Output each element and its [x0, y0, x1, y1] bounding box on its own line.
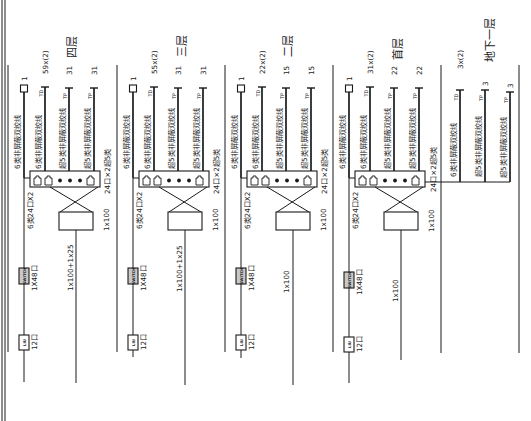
patch-panel-label: 24口×2超5类 [320, 149, 329, 194]
outlet-td: 31x(2) TD 6类非屏蔽双绞线 [359, 50, 375, 171]
outlet-tp: 31 TP 超5类非屏蔽双绞线 [83, 66, 99, 171]
ellipsis-dot-icon [167, 179, 171, 183]
ellipsis-dot-icon [177, 179, 181, 183]
data-backbone: 6类24口X2 SWITCH 1X48口 LIU 12口 [19, 178, 39, 382]
outlet-count: 31 [65, 66, 74, 75]
cable-label: 超5类非屏蔽双绞线 [474, 116, 483, 177]
voice-panel-label: 1x100 [211, 208, 220, 231]
outlet-count: 1 [345, 76, 354, 81]
cross-connect-line [169, 187, 207, 212]
switch-symbol: SWITCH [239, 268, 244, 285]
outlet-count: 31 [174, 66, 183, 75]
cable-label: 超5类非屏蔽双绞线 [167, 108, 176, 169]
voice-panel-label: 1x100 [102, 208, 111, 231]
cross-connect-line [60, 187, 98, 212]
outlet-td: 55x(2) TD 6类非屏蔽双绞线 [143, 50, 159, 171]
outlet-tp: 15 TP 超5类非屏蔽双绞线 [275, 66, 291, 171]
floor-block-3f: 三层 1 6类非屏蔽双绞线 55x(2) TD 6类非屏蔽双绞线 31 TP 超… [117, 35, 221, 385]
switch-symbol: SWITCH [22, 268, 27, 285]
outlet-symbol: TD [453, 93, 459, 101]
ellipsis-dot-icon [285, 179, 289, 183]
floor-block-4f: 四层 1 6类非屏蔽双绞线 59x(2) TD 6类非屏蔽双绞线 31 TP 超… [8, 36, 112, 383]
ellipsis-dot-icon [393, 179, 397, 183]
floor-block-1f: 首层 1 6类非屏蔽双绞线 31x(2) TD 6类非屏蔽双绞线 22 TP 超… [333, 38, 438, 383]
voice-panel [276, 212, 310, 230]
fiber-box-ports-label: 12口 [139, 334, 148, 350]
voice-panel [384, 212, 418, 230]
outlet-count: 15 [307, 66, 316, 75]
floor-label: 二层 [282, 35, 295, 57]
cross-connect: 1x100 1x100 [375, 187, 436, 360]
cable-label: 超5类非屏蔽双绞线 [58, 108, 67, 169]
outlet-tp: 22 TP 超5类非屏蔽双绞线 [408, 66, 424, 171]
outlet-td: 59x(2) TD 6类非屏蔽双绞线 [34, 50, 50, 171]
ellipsis-dot-icon [187, 179, 191, 183]
fiber-box-symbol: LIU [347, 341, 352, 348]
patch-panel-label: 24口×2超5类 [103, 149, 112, 194]
cable-label: 6类非屏蔽双绞线 [13, 115, 22, 169]
cable-label: 超5类非屏蔽双绞线 [275, 108, 284, 169]
outlet-count: 15 [282, 66, 291, 75]
voice-backbone-label: 1x100 [282, 270, 291, 293]
cable-label: 6类非屏蔽双绞线 [143, 115, 152, 169]
data-backbone: 6类24口X2 SWITCH 1X48口 LIU 12口 [236, 178, 256, 358]
outlet-symbol: TD [147, 89, 153, 97]
floor-label: 首层 [391, 38, 405, 60]
cat6-panel-label: 6类24口X2 [26, 192, 35, 229]
fiber-box-ports-label: 12口 [355, 336, 364, 352]
outlet-symbol: TP [387, 93, 393, 100]
outlet-symbol: TP [279, 93, 285, 100]
voice-panel-label: 1x100 [427, 209, 436, 232]
ellipsis-dot-icon [275, 179, 279, 183]
outlet-tp: 3 TP 超5类非屏蔽双绞线 [474, 81, 490, 182]
outlet-symbol: TD [255, 89, 261, 97]
cable-label: 超5类非屏蔽双绞线 [300, 108, 309, 169]
square-outlet-icon [346, 85, 353, 92]
outlet-count: 22 [415, 66, 424, 75]
square-outlet-icon [21, 85, 28, 92]
outlet-square: 1 6类非屏蔽双绞线 [122, 76, 138, 178]
cross-connect-line [375, 187, 417, 212]
outlet-tp: 31 TP 超5类非屏蔽双绞线 [167, 66, 183, 171]
cable-label: 6类非屏蔽双绞线 [230, 115, 239, 169]
ellipsis-dot-icon [78, 179, 82, 183]
outlet-square: 1 6类非屏蔽双绞线 [13, 76, 29, 178]
cable-label: 超5类非屏蔽双绞线 [383, 108, 392, 169]
outlet-symbol: TP [478, 95, 484, 102]
cross-connect: 1x100 1x100+1x25 [159, 187, 220, 385]
floor-block-b1: 地下一层 3x(2) TD 6类非屏蔽双绞线 3 TP 超5类非屏蔽双绞线 3 … [425, 18, 519, 353]
switch-ports-label: 1X48口 [30, 265, 39, 291]
voice-backbone-label: 1x100 [391, 279, 400, 302]
outlet-symbol: TP [171, 93, 177, 100]
floor-block-2f: 二层 1 6类非屏蔽双绞线 22x(2) TD 6类非屏蔽双绞线 15 TP 超… [225, 35, 329, 385]
outlet-symbol: TP [62, 93, 68, 100]
data-backbone: 6类24口X2 SWITCH 1X48口 LIU 12口 [128, 178, 148, 357]
floor-label: 四层 [66, 36, 79, 58]
outlet-count: 59x(2) [41, 50, 50, 74]
ellipsis-dot-icon [383, 179, 387, 183]
outlet-symbol: TD [38, 89, 44, 97]
cable-label: 6类非屏蔽双绞线 [359, 115, 368, 169]
fiber-box-symbol: LIU [131, 339, 136, 346]
diagram-canvas: 四层 1 6类非屏蔽双绞线 59x(2) TD 6类非屏蔽双绞线 31 TP 超… [0, 0, 531, 421]
switch-ports-label: 1X48口 [247, 265, 256, 291]
voice-backbone-label: 1x100+1x25 [175, 245, 184, 292]
outlet-symbol: TP [304, 93, 310, 100]
outlet-tp: 31 TP 超5类非屏蔽双绞线 [58, 66, 74, 171]
data-backbone: 6类24口X2 SWITCH 1X48口 LIU 12口 [344, 178, 364, 383]
outlet-tp: 31 TP 超5类非屏蔽双绞线 [192, 66, 208, 171]
outlet-count: 55x(2) [150, 50, 159, 74]
outlet-symbol: TP [412, 93, 418, 100]
ellipsis-dot-icon [295, 179, 299, 183]
cable-label: 超5类非屏蔽双绞线 [408, 108, 417, 169]
outlet-count: 1 [237, 76, 246, 81]
outlet-tp: 15 TP 超5类非屏蔽双绞线 [300, 66, 316, 171]
cat6-panel-label: 6类24口X2 [243, 192, 252, 229]
square-outlet-icon [130, 85, 137, 92]
outlet-square: 1 6类非屏蔽双绞线 [338, 76, 354, 178]
square-outlet-icon [238, 85, 245, 92]
outlet-count: 22x(2) [258, 50, 267, 74]
cat6-panel-label: 6类24口X2 [135, 192, 144, 229]
floor-label: 地下一层 [484, 18, 497, 62]
cabling-system-diagram: 四层 1 6类非屏蔽双绞线 59x(2) TD 6类非屏蔽双绞线 31 TP 超… [0, 0, 531, 421]
